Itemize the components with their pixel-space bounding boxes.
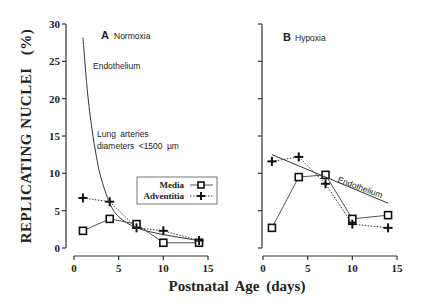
y-tick-label: 30 [49, 18, 61, 30]
y-tick-label: 20 [49, 93, 61, 105]
panel-b-adventitia-point [267, 157, 276, 166]
x-tick-label: 0 [260, 262, 266, 274]
x-tick-label: 10 [347, 262, 359, 274]
legend-label-adventitia: Adventitia [144, 191, 185, 201]
y-axis-title: REPLICATING NUCLEI [18, 67, 34, 243]
x-tick-label: 0 [71, 262, 77, 274]
y-axis-label: REPLICATING NUCLEI (%) [18, 29, 35, 244]
x-tick-label: 15 [392, 262, 404, 274]
panel-a-adventitia-point [105, 197, 114, 206]
panel-b-endothelium-line [272, 155, 388, 204]
panel-a-title: Normoxia [114, 31, 151, 41]
panel-a-media-point [160, 239, 167, 246]
panel-b-adventitia-point [384, 223, 393, 232]
x-tick-label: 10 [158, 262, 170, 274]
panel-a-note-line1: Lung arteries [97, 129, 149, 139]
panel-b-media-point [268, 224, 275, 231]
panel-a-media-line [83, 219, 199, 243]
x-tick-label: 5 [116, 262, 122, 274]
panel-b-title: Hypoxia [295, 33, 326, 43]
legend: Media Adventitia [137, 177, 217, 204]
x-tick-label: 5 [305, 262, 311, 274]
panel-a-endothelium-annotation: Endothelium [93, 61, 140, 71]
panel-b: 051015 B Hypoxia Endothelium [258, 24, 403, 274]
legend-marker-square [198, 182, 204, 188]
panel-a-media-point [106, 215, 113, 222]
panel-b-media-point [295, 174, 302, 181]
y-tick-label: 25 [49, 55, 61, 67]
panel-a-note-line2: diameters <1500 µm [97, 141, 179, 151]
y-tick-label: 0 [55, 242, 61, 254]
panel-a-media-point [79, 227, 86, 234]
svg-text:REPLICATING NUCLEI (%): REPLICATING NUCLEI (%) [18, 29, 35, 244]
panel-b-media-point [385, 212, 392, 219]
y-tick-label: 15 [49, 130, 61, 142]
x-tick-label: 15 [203, 262, 215, 274]
chart: REPLICATING NUCLEI (%) 051015202530 0510… [0, 0, 425, 307]
panel-b-endothelium-annotation: Endothelium [336, 174, 384, 200]
panel-a-adventitia-point [78, 193, 87, 202]
panel-b-label: B [283, 31, 291, 43]
y-axis-unit: (%) [18, 29, 35, 56]
panel-a: 051015202530 051015 A Normoxia Endotheli… [49, 18, 217, 274]
panel-b-adventitia-point [294, 152, 303, 161]
x-axis-label: Postnatal Age (days) [169, 278, 306, 295]
panel-b-media-line [272, 175, 388, 228]
y-tick-label: 10 [49, 167, 61, 179]
legend-label-media: Media [160, 180, 185, 190]
y-tick-label: 5 [55, 205, 61, 217]
panel-a-label: A [101, 29, 109, 41]
